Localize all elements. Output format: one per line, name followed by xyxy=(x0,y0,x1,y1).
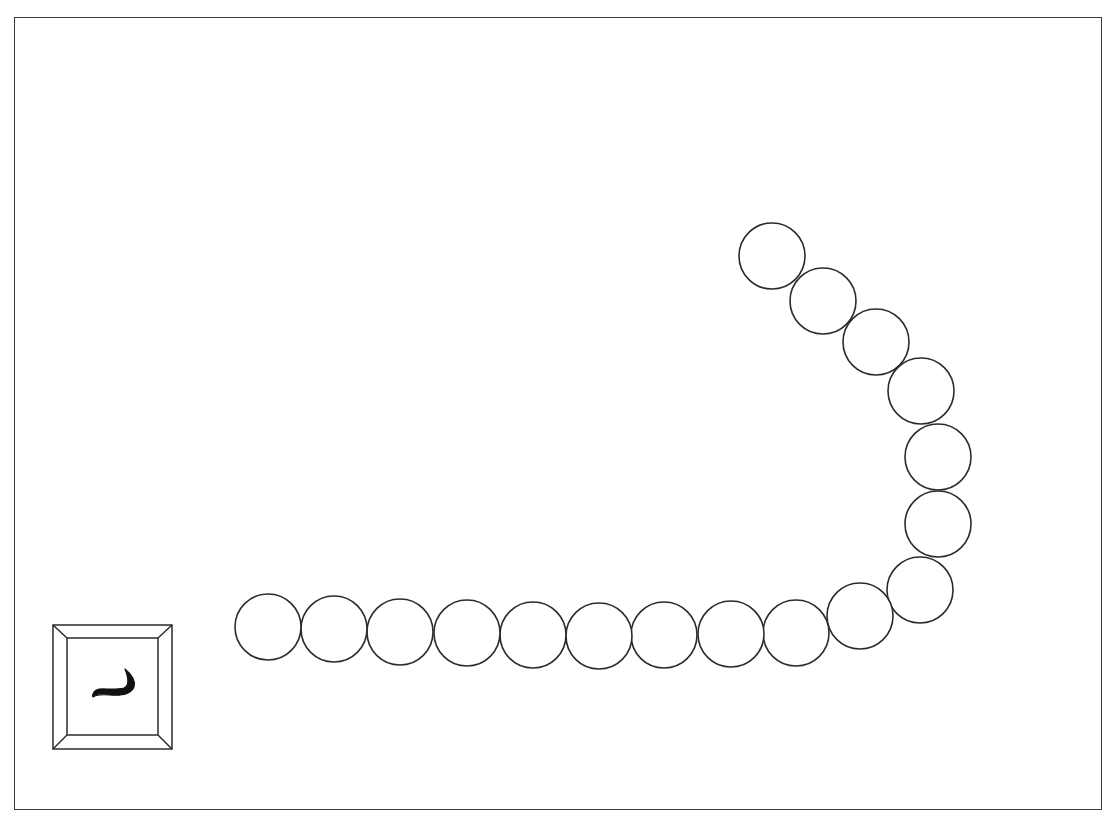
key-tile[interactable] xyxy=(0,0,1108,822)
keycap-icon xyxy=(53,625,172,749)
game-stage: ں xyxy=(0,0,1108,822)
key-inner-face xyxy=(67,638,158,735)
